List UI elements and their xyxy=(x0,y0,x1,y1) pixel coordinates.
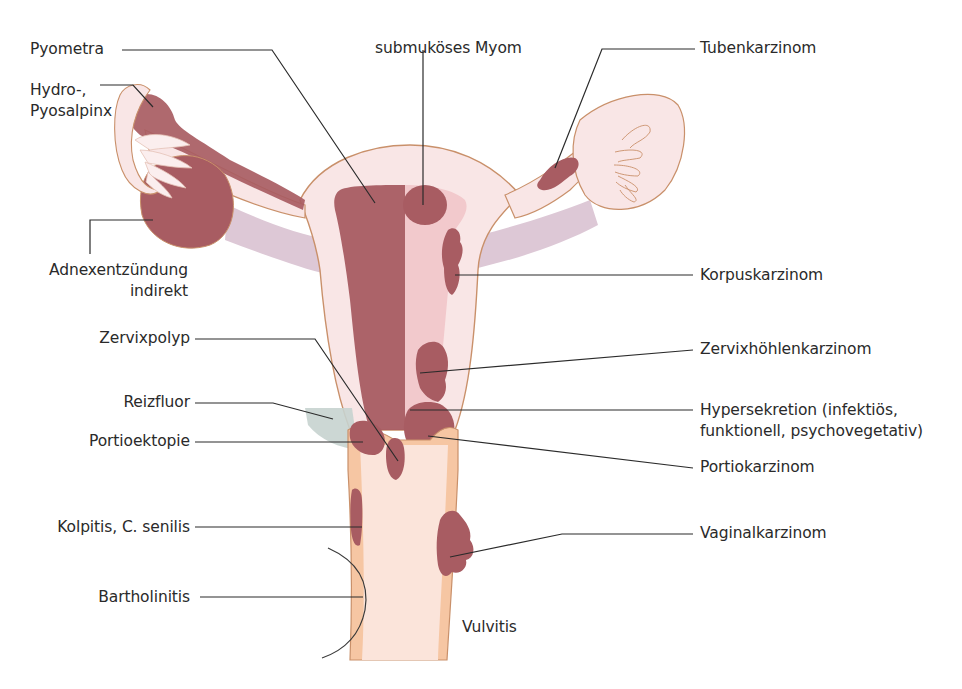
submucous-myoma-lesion xyxy=(403,185,447,225)
label-portioektopie: Portioektopie xyxy=(89,431,190,452)
label-vulvitis: Vulvitis xyxy=(462,617,517,638)
label-adnexentzuendung: Adnexentzündung indirekt xyxy=(36,260,188,302)
label-submukoeses-myom: submuköses Myom xyxy=(375,38,522,59)
vagina-lumen xyxy=(360,445,448,660)
label-pyometra: Pyometra xyxy=(30,39,104,60)
label-zervixhoehlenkarzinom: Zervixhöhlenkarzinom xyxy=(700,339,871,360)
right-fimbria-ovary xyxy=(573,94,684,209)
label-vaginalkarzinom: Vaginalkarzinom xyxy=(700,523,827,544)
label-korpuskarzinom: Korpuskarzinom xyxy=(700,265,823,286)
label-hydro-pyosalpinx: Hydro-, Pyosalpinx xyxy=(30,80,112,122)
label-bartholinitis: Bartholinitis xyxy=(98,587,190,608)
label-zervixpolyp: Zervixpolyp xyxy=(99,328,190,349)
label-hypersekretion: Hypersekretion (infektiös, funktionell, … xyxy=(700,400,923,442)
label-portiokarzinom: Portiokarzinom xyxy=(700,457,815,478)
vaginal-carcinoma-lesion xyxy=(437,511,474,576)
label-kolpitis: Kolpitis, C. senilis xyxy=(57,517,190,538)
colpitis-lesion xyxy=(350,488,362,545)
label-reizfluor: Reizfluor xyxy=(123,392,190,413)
label-tubenkarzinom: Tubenkarzinom xyxy=(700,38,816,59)
